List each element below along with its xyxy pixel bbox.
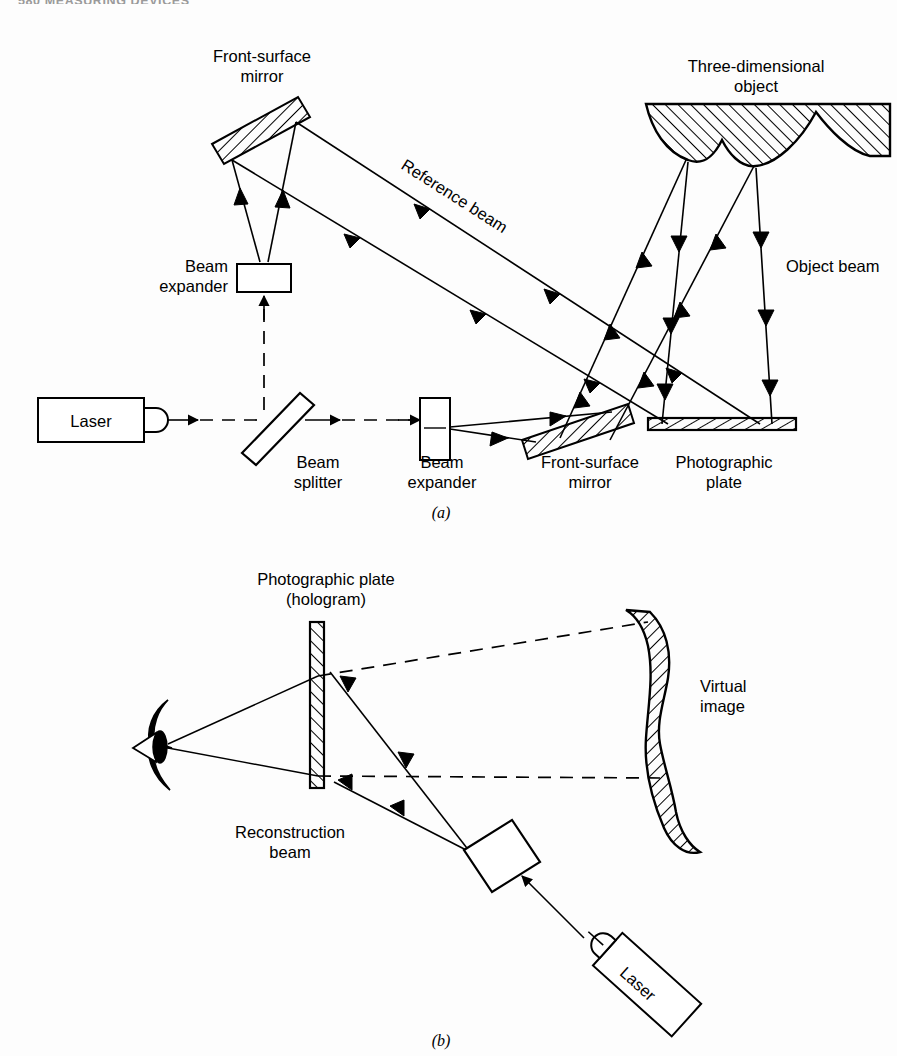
illumination-ray-right: [610, 166, 754, 440]
virtual-ray-lower-dashed: [318, 776, 660, 778]
label-three-dimensional-object-line2: object: [734, 77, 778, 95]
laser-to-expander-ray: [522, 876, 584, 938]
beam-expander-vertical: [237, 264, 291, 292]
beam-expander-tilted: [464, 820, 540, 892]
label-three-dimensional-object-line1: Three-dimensional: [688, 57, 825, 75]
arrowhead-obj-left-1: [671, 236, 687, 252]
label-beam-expander-upper-line2: expander: [159, 277, 228, 295]
arrowhead-ref-upper-2: [544, 289, 560, 304]
arrowhead-obj-right-1: [753, 232, 769, 248]
label-reconstruction-beam-line1: Reconstruction: [235, 823, 345, 841]
virtual-ray-upper-dashed: [318, 622, 648, 676]
arrowhead-obj-left-3: [657, 384, 673, 400]
figure-a-caption: (a): [432, 504, 451, 522]
label-beam-splitter-line2: splitter: [294, 473, 343, 491]
beam-expander-horizontal: [420, 398, 450, 460]
arrowhead-illum-right-3: [638, 372, 654, 388]
arrowhead-lowmirror-upper: [550, 412, 566, 426]
photographic-plate: [648, 418, 796, 430]
observer-eye: [133, 700, 172, 790]
arrowhead-expander-mirror-left: [234, 188, 248, 205]
label-photographic-plate-line2: plate: [706, 473, 742, 491]
arrowhead-recon-upper-mid: [398, 752, 414, 768]
arrowhead-illum-left-1: [636, 252, 652, 268]
reference-beam-ray-upper: [296, 122, 760, 424]
arrowhead-obj-left-2: [663, 318, 679, 334]
label-hologram-plate-line2: (hologram): [286, 590, 366, 608]
arrowhead-illum-right-2: [674, 302, 690, 318]
virtual-image-object: [626, 610, 700, 853]
arrowhead-ref-upper-3: [666, 368, 682, 383]
label-hologram-plate-line1: Photographic plate: [257, 570, 395, 588]
label-beam-expander-lower-line1: Beam: [420, 453, 463, 471]
sight-line-upper-solid: [168, 676, 318, 744]
figure-b-caption: (b): [432, 1032, 451, 1050]
label-object-beam: Object beam: [786, 257, 880, 275]
arrowhead-recon-upper-tip: [340, 676, 356, 692]
sight-line-lower-solid: [168, 748, 318, 776]
front-surface-mirror-upper: [212, 97, 310, 164]
front-surface-mirror-lower: [522, 404, 634, 459]
label-reference-beam: Reference beam: [398, 155, 511, 236]
label-virtual-image-line2: image: [700, 697, 745, 715]
arrowhead-obj-right-3: [762, 380, 778, 396]
label-front-surface-mirror-upper-line1: Front-surface: [213, 47, 311, 65]
page-canvas: 580 MEASURING DEVICES Front-surface: [0, 0, 897, 1056]
arrowhead-lowmirror-lower: [490, 432, 508, 446]
label-beam-expander-lower-line2: expander: [408, 473, 477, 491]
label-beam-expander-upper-line1: Beam: [185, 257, 228, 275]
label-front-surface-mirror-upper-line2: mirror: [240, 67, 284, 85]
label-reconstruction-beam-line2: beam: [269, 843, 310, 861]
label-beam-splitter-line1: Beam: [296, 453, 339, 471]
reconstruction-ray-lower: [334, 782, 470, 852]
hologram-plate: [310, 622, 324, 788]
label-front-surface-mirror-lower-line1: Front-surface: [541, 453, 639, 471]
holography-figure: Front-surface mirror Beam expander: [0, 0, 897, 1056]
arrowhead-expander-mirror-right: [275, 190, 290, 208]
label-photographic-plate-line1: Photographic: [675, 453, 772, 471]
figure-a-group: Front-surface mirror Beam expander: [38, 47, 890, 522]
arrowhead-illum-right-1: [710, 234, 726, 250]
label-virtual-image-line1: Virtual: [700, 677, 746, 695]
three-dimensional-object: [646, 104, 890, 166]
figure-b-group: Photographic plate (hologram) Virtual im…: [133, 570, 746, 1050]
reconstruction-ray-upper: [330, 672, 470, 852]
arrowhead-ref-upper-1: [414, 204, 430, 219]
arrowhead-obj-right-2: [758, 310, 774, 326]
label-front-surface-mirror-lower-line2: mirror: [568, 473, 612, 491]
label-laser-a: Laser: [70, 412, 112, 430]
